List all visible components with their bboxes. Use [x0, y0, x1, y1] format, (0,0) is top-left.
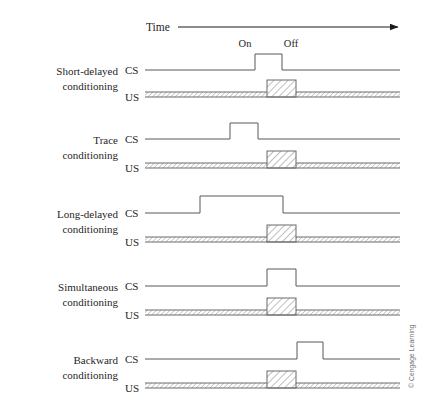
time-axis-group: Time — [146, 21, 398, 33]
figure-canvas: Time On Off Short-delayed conditioning C… — [0, 0, 432, 414]
cs-off-label: Off — [284, 38, 299, 49]
row-label-line1: Simultaneous — [58, 281, 118, 293]
cs-on-label: On — [239, 38, 253, 49]
row-label-line1: Backward — [73, 354, 118, 366]
row-label-line1: Long-delayed — [57, 208, 119, 220]
cs-trace-simultaneous — [145, 269, 400, 286]
credit-group: © Cengage Learning — [408, 324, 416, 388]
row-short-delayed: Short-delayed conditioning CS US — [56, 54, 400, 103]
cs-trace-trace — [145, 123, 400, 139]
cs-trace-short-delayed — [145, 54, 400, 70]
row-label-line2: conditioning — [62, 369, 118, 381]
row-trace: Trace conditioning CS US — [62, 123, 400, 174]
us-block-trace — [267, 151, 296, 168]
channel-label-cs: CS — [125, 280, 138, 292]
row-label-line2: conditioning — [62, 149, 118, 161]
cs-trace-backward — [145, 342, 400, 359]
channel-label-cs: CS — [125, 133, 138, 145]
channel-label-us: US — [125, 91, 139, 103]
us-block-simultaneous — [267, 298, 296, 315]
us-block-long-delayed — [267, 225, 296, 242]
row-long-delayed: Long-delayed conditioning CS US — [57, 196, 400, 248]
row-simultaneous: Simultaneous conditioning CS US — [58, 269, 400, 321]
channel-label-us: US — [125, 162, 139, 174]
row-backward: Backward conditioning CS US — [62, 342, 400, 394]
conditioning-timing-figure: Time On Off Short-delayed conditioning C… — [0, 0, 432, 414]
us-block-short-delayed — [267, 80, 296, 97]
row-label-line2: conditioning — [62, 296, 118, 308]
row-label-line1: Short-delayed — [56, 65, 118, 77]
row-label-line1: Trace — [93, 134, 118, 146]
channel-label-us: US — [125, 309, 139, 321]
cs-trace-long-delayed — [145, 196, 400, 213]
time-axis-label: Time — [146, 21, 170, 33]
channel-label-us: US — [125, 236, 139, 248]
channel-label-cs: CS — [125, 353, 138, 365]
row-label-line2: conditioning — [62, 223, 118, 235]
onoff-markers-group: On Off — [239, 38, 299, 49]
channel-label-cs: CS — [125, 64, 138, 76]
us-block-backward — [267, 371, 296, 388]
row-label-line2: conditioning — [62, 80, 118, 92]
copyright-credit: © Cengage Learning — [408, 324, 416, 388]
channel-label-us: US — [125, 382, 139, 394]
channel-label-cs: CS — [125, 207, 138, 219]
